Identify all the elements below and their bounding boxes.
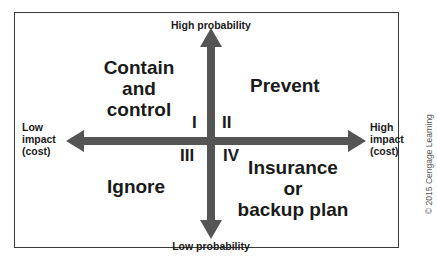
axis-label-left: Low impact (cost) bbox=[22, 121, 56, 157]
quadrant-1-numeral: I bbox=[192, 113, 197, 133]
axis-right-line: High bbox=[370, 121, 404, 133]
arrow-down-icon bbox=[200, 141, 222, 239]
quadrant-3-numeral: III bbox=[180, 146, 194, 166]
axis-right-line: impact bbox=[370, 133, 404, 145]
copyright-credit: © 2015 Cengage Learning bbox=[424, 114, 434, 214]
axis-right-line: (cost) bbox=[370, 145, 404, 157]
axis-left-line: (cost) bbox=[22, 145, 56, 157]
quadrant-4-label: Insurance or backup plan bbox=[233, 157, 353, 220]
axis-label-right: High impact (cost) bbox=[370, 121, 404, 157]
quadrant-1-line: Contain bbox=[94, 57, 184, 78]
quadrant-1-line: and bbox=[94, 78, 184, 99]
axis-left-line: impact bbox=[22, 133, 56, 145]
axis-label-bottom: Low probability bbox=[166, 240, 256, 252]
quadrant-2-numeral: II bbox=[222, 113, 231, 133]
arrow-up-icon bbox=[200, 28, 222, 141]
axis-label-top: High probability bbox=[166, 19, 256, 31]
quadrant-1-label: Contain and control bbox=[94, 57, 184, 120]
quadrant-4-line: backup plan bbox=[233, 199, 353, 220]
quadrant-1-line: control bbox=[94, 99, 184, 120]
quadrant-4-line: or bbox=[233, 178, 353, 199]
axis-left-line: Low bbox=[22, 121, 56, 133]
quadrant-2-label: Prevent bbox=[250, 75, 320, 96]
quadrant-4-line: Insurance bbox=[233, 157, 353, 178]
quadrant-3-label: Ignore bbox=[107, 176, 165, 197]
